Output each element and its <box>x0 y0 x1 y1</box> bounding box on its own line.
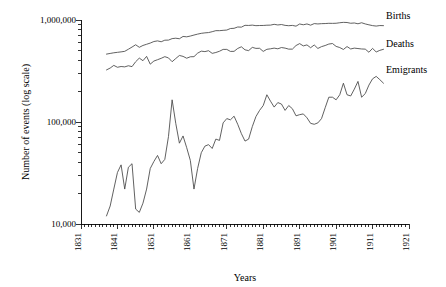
series-line-emigrants <box>107 76 384 216</box>
legend-label-births: Births <box>386 10 411 21</box>
x-tick-label-1881: 1881 <box>255 233 265 251</box>
y-tick-label-mid: 100,000 <box>47 117 77 127</box>
legend-label-deaths: Deaths <box>386 38 414 49</box>
x-tick-label-1901: 1901 <box>328 233 338 251</box>
y-tick-label-top: 1,000,000 <box>40 15 77 25</box>
line-chart-svg: 1831184118511861187118811891190119111921… <box>0 0 446 287</box>
x-tick-label-1911: 1911 <box>365 233 375 251</box>
x-tick-label-1871: 1871 <box>219 233 229 251</box>
y-axis-ticks <box>76 20 81 224</box>
x-tick-label-1891: 1891 <box>292 233 302 251</box>
chart-figure: 1831184118511861187118811891190119111921… <box>0 0 446 287</box>
series-line-deaths <box>107 44 384 70</box>
x-tick-label-1841: 1841 <box>109 233 119 251</box>
x-tick-label-1851: 1851 <box>146 233 156 251</box>
x-tick-label-1921: 1921 <box>401 233 411 251</box>
y-tick-label-bottom: 10,000 <box>51 219 76 229</box>
x-axis-title: Years <box>234 272 256 283</box>
x-tick-labels: 1831184118511861187118811891190119111921 <box>73 233 411 251</box>
legend-label-emigrants: Emigrants <box>386 64 427 75</box>
x-axis-ticks <box>81 224 409 229</box>
y-axis-title: Number of events (log scale) <box>20 64 32 180</box>
x-tick-label-1861: 1861 <box>182 233 192 251</box>
x-tick-label-1831: 1831 <box>73 233 83 251</box>
